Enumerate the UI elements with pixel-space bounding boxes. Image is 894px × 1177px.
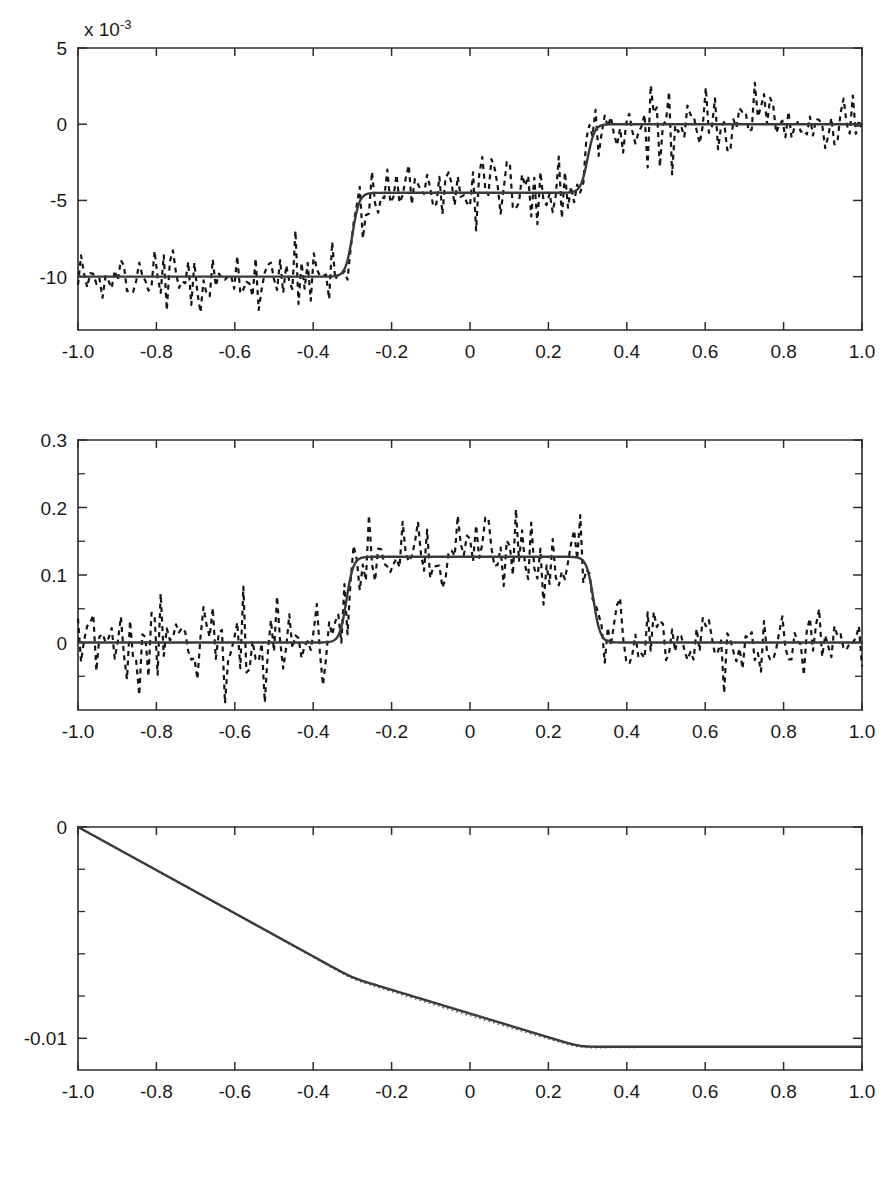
figure-three-stacked-plots: -1.0-0.8-0.6-0.4-0.200.20.40.60.81.050-5… bbox=[0, 0, 894, 1177]
y-tick-label: -5 bbox=[50, 190, 67, 211]
x-tick-label: 0 bbox=[465, 341, 476, 362]
x-tick-label: -0.2 bbox=[375, 341, 408, 362]
y-tick-label: 0 bbox=[56, 633, 67, 654]
x-tick-label: -0.4 bbox=[297, 1081, 330, 1102]
x-tick-label: -1.0 bbox=[62, 341, 95, 362]
axes bbox=[78, 827, 862, 1070]
x-tick-label: 0.4 bbox=[614, 341, 641, 362]
x-tick-label: -1.0 bbox=[62, 721, 95, 742]
x-tick-label: 0.6 bbox=[692, 1081, 718, 1102]
y-ticks: 0-0.01 bbox=[24, 817, 862, 1049]
x-ticks: -1.0-0.8-0.6-0.4-0.200.20.40.60.81.0 bbox=[62, 827, 876, 1102]
axes-spines bbox=[78, 827, 862, 1070]
plot-panel-1: -1.0-0.8-0.6-0.4-0.200.20.40.60.81.050-5… bbox=[0, 0, 894, 400]
x-tick-label: -0.6 bbox=[218, 721, 251, 742]
axes-spines bbox=[78, 48, 862, 330]
y-tick-label: 0.1 bbox=[41, 565, 67, 586]
x-tick-label: -0.4 bbox=[297, 721, 330, 742]
x-tick-label: 0.6 bbox=[692, 721, 718, 742]
x-ticks: -1.0-0.8-0.6-0.4-0.200.20.40.60.81.0 bbox=[62, 48, 876, 362]
cumulative-solid-curve bbox=[78, 827, 862, 1047]
y-axis-exponent-label: x 10-3 bbox=[84, 17, 131, 40]
x-tick-label: -0.8 bbox=[140, 1081, 173, 1102]
x-tick-label: 0.6 bbox=[692, 341, 718, 362]
x-tick-label: 0 bbox=[465, 1081, 476, 1102]
x-tick-label: 0.2 bbox=[535, 721, 561, 742]
x-tick-label: -0.8 bbox=[140, 721, 173, 742]
plot-1-canvas: -1.0-0.8-0.6-0.4-0.200.20.40.60.81.050-5… bbox=[0, 0, 894, 400]
axes bbox=[78, 440, 862, 710]
x-tick-label: 1.0 bbox=[849, 1081, 875, 1102]
x-tick-label: -0.6 bbox=[218, 1081, 251, 1102]
x-tick-label: 0.8 bbox=[770, 341, 796, 362]
x-tick-label: 0 bbox=[465, 721, 476, 742]
x-tick-label: -0.2 bbox=[375, 721, 408, 742]
y-tick-label: 5 bbox=[56, 38, 67, 59]
exponent-mantissa: x 10-3 bbox=[84, 17, 131, 40]
x-tick-label: 0.4 bbox=[614, 721, 641, 742]
plot-2-canvas: -1.0-0.8-0.6-0.4-0.200.20.40.60.81.00.30… bbox=[0, 400, 894, 780]
x-tick-label: 0.2 bbox=[535, 341, 561, 362]
x-ticks: -1.0-0.8-0.6-0.4-0.200.20.40.60.81.0 bbox=[62, 440, 876, 742]
x-tick-label: -0.2 bbox=[375, 1081, 408, 1102]
y-tick-label: 0.2 bbox=[41, 498, 67, 519]
x-tick-label: -0.8 bbox=[140, 341, 173, 362]
y-tick-label: 0 bbox=[56, 114, 67, 135]
y-tick-label: 0.3 bbox=[41, 430, 67, 451]
estimate-solid-curve bbox=[78, 557, 862, 643]
noisy-measurement-dashed-curve bbox=[78, 83, 862, 313]
x-tick-label: -0.6 bbox=[218, 341, 251, 362]
y-tick-label: 0 bbox=[56, 817, 67, 838]
x-tick-label: 1.0 bbox=[849, 721, 875, 742]
x-tick-label: 0.8 bbox=[770, 1081, 796, 1102]
axes bbox=[78, 48, 862, 330]
x-tick-label: 0.2 bbox=[535, 1081, 561, 1102]
plot-panel-2: -1.0-0.8-0.6-0.4-0.200.20.40.60.81.00.30… bbox=[0, 400, 894, 780]
y-tick-label: -10 bbox=[40, 267, 67, 288]
x-tick-label: 1.0 bbox=[849, 341, 875, 362]
x-tick-label: -0.4 bbox=[297, 341, 330, 362]
y-tick-label: -0.01 bbox=[24, 1028, 67, 1049]
plot-panel-3: -1.0-0.8-0.6-0.4-0.200.20.40.60.81.00-0.… bbox=[0, 780, 894, 1177]
x-tick-label: 0.4 bbox=[614, 1081, 641, 1102]
noisy-measurement-dashed-curve bbox=[78, 509, 862, 703]
plot-3-canvas: -1.0-0.8-0.6-0.4-0.200.20.40.60.81.00-0.… bbox=[0, 780, 894, 1177]
y-ticks: 50-5-10 bbox=[40, 38, 862, 288]
x-tick-label: 0.8 bbox=[770, 721, 796, 742]
x-tick-label: -1.0 bbox=[62, 1081, 95, 1102]
axes-spines bbox=[78, 440, 862, 710]
